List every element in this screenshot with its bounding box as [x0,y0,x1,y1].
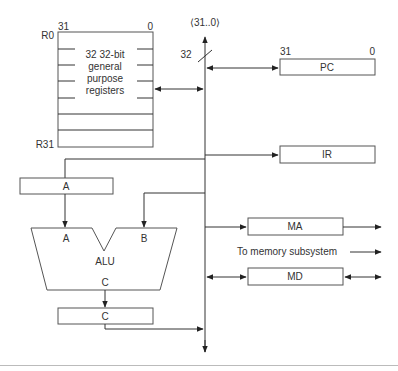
bus: ⟨31..0⟩ 32 [180,17,220,352]
pc-label: PC [320,62,334,73]
regfile-desc-line: purpose [87,73,124,84]
pc-lsb: 0 [369,46,375,57]
alu-input-b-label: B [141,233,148,244]
pc-register: 31 0 PC [207,46,375,75]
bus-width-label: 32 [180,49,192,60]
alu-label: ALU [95,256,114,267]
c-label: C [101,311,108,322]
c-to-bus-arrow [105,324,203,329]
cpu-datapath-diagram: ⟨31..0⟩ 32 31 0 R0 R31 32 32-bit general… [0,0,398,371]
regfile-msb: 31 [58,21,70,32]
regfile-r31-label: R31 [36,139,55,150]
bus-to-alu-b-arrow [144,193,205,227]
alu-input-a-label: A [63,233,70,244]
a-label: A [63,181,70,192]
ma-register: MA [205,218,381,235]
ma-label: MA [288,221,303,232]
regfile-r0-label: R0 [41,30,54,41]
pc-msb: 31 [280,46,292,57]
alu: A B ALU C [31,228,177,307]
alu-output-label: C [101,277,108,288]
regfile-desc-line: registers [86,85,124,96]
md-label: MD [287,271,303,282]
regfile-desc-line: general [88,61,121,72]
ir-label: IR [322,149,332,160]
memory-subsystem-note: To memory subsystem [237,246,337,257]
regfile-lsb: 0 [147,21,153,32]
bus-range-label: ⟨31..0⟩ [190,17,220,28]
ir-register: IR [205,146,375,163]
c-register: C [58,308,203,329]
bus-to-a-line [65,159,205,178]
md-register: MD [207,268,381,285]
register-file: 31 0 R0 R31 32 32-bit general purpose re… [36,21,203,150]
regfile-desc-line: 32 32-bit [86,49,125,60]
